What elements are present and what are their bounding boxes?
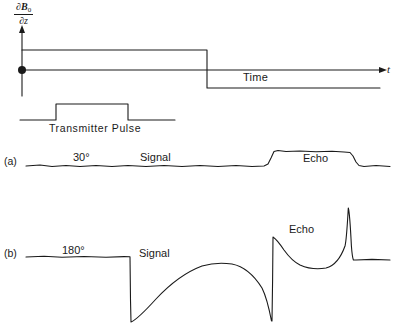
row-a-tag: (a) [4, 156, 17, 167]
time-axis-label: Time [243, 72, 268, 83]
figure-canvas [0, 0, 397, 329]
y-axis-arrowhead [19, 25, 25, 33]
y-axis-label: ∂B0 ∂z [14, 2, 33, 26]
row-a-signal-label: Signal [140, 152, 171, 163]
gradient-waveform [22, 50, 380, 88]
row-b-flip-angle: 180° [62, 245, 85, 256]
row-b-tag: (b) [4, 248, 17, 259]
row-a-flip-angle: 30° [73, 152, 90, 163]
y-axis-label-denominator: ∂z [14, 15, 33, 27]
pulse-sequence-figure: ∂B0 ∂z t Time Transmitter Pulse (a) 30° … [0, 0, 397, 329]
transmitter-pulse-waveform [20, 104, 175, 120]
time-axis-arrowhead [379, 67, 387, 73]
row-b-echo-label: Echo [289, 224, 314, 235]
row-a-echo-label: Echo [303, 153, 328, 164]
row-b-signal-label: Signal [139, 248, 170, 259]
transmitter-pulse-label: Transmitter Pulse [49, 123, 141, 134]
row-b-signal-trace [26, 208, 390, 322]
y-axis-label-numerator: ∂B0 [14, 2, 33, 15]
time-axis-symbol: t [387, 64, 390, 75]
